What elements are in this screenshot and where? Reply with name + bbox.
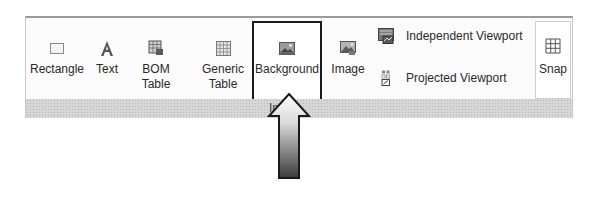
generic-table-button[interactable]: Generic Table [198,20,248,100]
bom-table-icon [148,40,164,56]
text-label: Text [96,62,118,77]
generic-table-icon [215,40,231,56]
projected-viewport-label: Projected Viewport [406,71,507,85]
background-icon [279,40,295,56]
bom-table-button[interactable]: BOM Table [128,20,184,100]
background-button[interactable]: Background [252,21,322,101]
rectangle-button[interactable]: Rectangle [30,20,84,100]
rectangle-icon [49,40,65,56]
snap-button[interactable]: Snap [535,21,571,99]
rectangle-label: Rectangle [30,62,84,77]
image-label: Image [331,62,364,77]
projected-viewport-icon [378,70,394,86]
generic-table-label-line1: Generic [202,62,244,77]
projected-viewport-button[interactable]: Projected Viewport [378,70,507,86]
bom-table-label: BOM Table [128,62,184,92]
independent-viewport-label: Independent Viewport [406,29,523,43]
image-icon [340,40,356,56]
text-icon [99,40,115,56]
independent-viewport-icon [378,28,394,44]
text-button[interactable]: Text [94,20,120,100]
snap-grid-icon [545,38,561,54]
independent-viewport-button[interactable]: Independent Viewport [378,28,523,44]
background-label: Background [255,62,319,77]
image-button[interactable]: Image [328,20,368,100]
generic-table-label-line2: Table [209,77,238,92]
snap-label: Snap [539,62,567,76]
arrow-up-icon [267,93,311,179]
